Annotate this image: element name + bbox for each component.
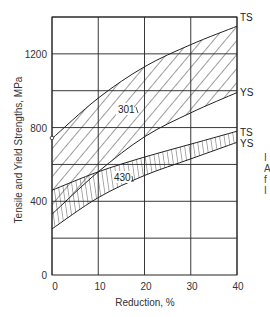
xtick-30: 30 [186,281,198,292]
clipped-text-3: f [264,174,267,185]
series-label-301: 301 [118,104,135,115]
start-marker [50,136,54,140]
xtick-20: 20 [140,281,152,292]
ytick-1200: 1200 [25,49,48,60]
clipped-text-1: I [264,152,267,163]
clipped-text-2: A [264,163,270,174]
ys-label-430: YS [240,138,254,149]
y-axis-label: Tensile and Yield Strengths, MPa [13,76,24,223]
xtick-10: 10 [94,281,106,292]
strength-vs-reduction-chart: 0 400 800 1200 0 10 20 30 40 Reduction, … [0,0,270,317]
series-label-430: 430 [114,172,131,183]
ytick-400: 400 [30,196,47,207]
ts-label-430: TS [240,127,253,138]
ytick-0: 0 [41,270,47,281]
xtick-40: 40 [232,281,244,292]
ts-label-301: TS [240,12,253,23]
xtick-0: 0 [52,281,58,292]
ytick-800: 800 [30,123,47,134]
clipped-text-4: I [264,185,267,196]
x-axis-label: Reduction, % [115,297,175,308]
ys-label-301: YS [240,87,254,98]
